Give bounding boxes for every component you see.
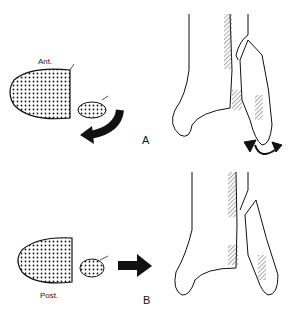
panel-letter-b: B [143, 294, 150, 306]
cross-section-b [18, 238, 108, 283]
label-posterior: Post. [40, 291, 58, 300]
label-anterior: Ant. [38, 57, 52, 66]
ankle-fracture-diagram [0, 0, 290, 310]
ankle-a [172, 14, 282, 154]
translation-arrow-b [118, 254, 152, 277]
ankle-b [175, 172, 278, 295]
cross-section-a [10, 64, 108, 119]
panel-letter-a: A [142, 134, 149, 146]
